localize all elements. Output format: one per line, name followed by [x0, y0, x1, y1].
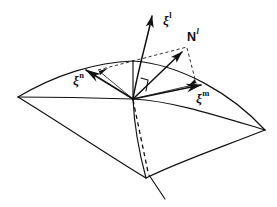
surface-gridline-u — [18, 97, 265, 130]
dashed-line-normal-drop — [187, 48, 196, 83]
label-tangent-xi-n-superscript: n — [79, 70, 84, 80]
surface-edge-lower-left — [18, 97, 146, 178]
label-normal-n-l-superscript: l — [197, 26, 199, 36]
label-tangent-xi-m: ξm — [196, 90, 209, 106]
label-normal-n-l-base: N — [187, 30, 196, 44]
descender-solid-line — [149, 175, 165, 199]
diagram-canvas — [0, 0, 277, 207]
vector-xi-l — [133, 16, 152, 99]
label-tangent-xi-m-base: ξ — [196, 91, 202, 106]
label-tangent-xi-n-base: ξ — [73, 73, 79, 88]
surface-edge-lower-right — [146, 130, 265, 178]
right-angle-marker — [141, 78, 148, 91]
surface-vector-diagram: ξn ξm ξl Nl — [0, 0, 277, 207]
guide-line-to-n — [99, 71, 133, 99]
label-tangent-xi-m-superscript: m — [202, 88, 209, 98]
vector-xi-m — [133, 85, 201, 99]
descender-dashed-line — [133, 100, 148, 172]
label-vector-xi-l: ξl — [163, 12, 171, 28]
label-normal-n-l: Nl — [187, 28, 198, 44]
label-tangent-xi-n: ξn — [73, 72, 84, 88]
vector-xi-n — [86, 70, 133, 99]
label-vector-xi-l-superscript: l — [169, 10, 171, 20]
label-vector-xi-l-base: ξ — [163, 13, 169, 28]
